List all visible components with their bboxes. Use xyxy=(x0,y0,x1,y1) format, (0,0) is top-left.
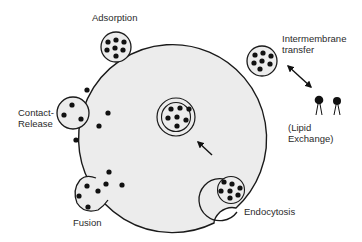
label-lipid-exchange: (Lipid Exchange) xyxy=(288,122,333,144)
label-intermembrane: Intermembrane transfer xyxy=(282,33,346,55)
intermembrane-liposome xyxy=(247,46,277,76)
label-contact-release: Contact- Release xyxy=(18,107,54,129)
label-contact-line2: Release xyxy=(18,118,54,129)
label-intermembrane-line2: transfer xyxy=(282,44,346,55)
label-contact-line1: Contact- xyxy=(18,107,54,118)
endosome xyxy=(157,98,195,136)
cell xyxy=(79,45,267,233)
label-intermembrane-line1: Intermembrane xyxy=(282,33,346,44)
exchange-arrow xyxy=(288,66,311,87)
label-lipid-line1: (Lipid xyxy=(288,122,333,133)
label-fusion: Fusion xyxy=(73,217,102,228)
label-lipid-line2: Exchange) xyxy=(288,133,333,144)
lipid-molecules xyxy=(315,96,341,115)
label-endocytosis: Endocytosis xyxy=(244,206,295,217)
label-adsorption: Adsorption xyxy=(92,12,137,23)
adsorption-liposome xyxy=(101,32,131,62)
contact-release-liposome xyxy=(57,97,89,129)
